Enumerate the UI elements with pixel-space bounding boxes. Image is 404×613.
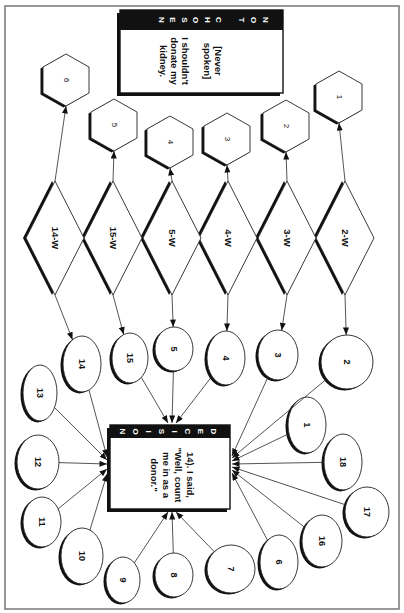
hexagon-label: 3 [223,137,232,142]
edge-arrow [170,168,172,181]
diamond-node: 14-W [23,181,84,295]
circle-node: 6 [258,535,299,591]
not-chosen-box-header-letter: N [261,17,270,23]
not-chosen-box-header-letter: C [214,17,223,23]
hexagon-node: 1 [314,71,363,125]
diamond-node: 4-W [196,181,257,295]
decision-box-text-line: 14). I said, [185,452,196,498]
not-chosen-box-header-letter: O [191,17,200,23]
diamond-label: 4-W [223,229,234,246]
diamond-node: 15-W [81,181,142,295]
diamond-node: 2-W [313,181,374,295]
edge-arrow [232,377,268,456]
edge-arrow [113,151,114,181]
decision-box-header-letter: C [183,429,192,435]
edge-arrow [90,474,107,530]
circle-node: 15 [110,333,149,385]
decision-box-header-letter: E [196,429,205,435]
not-chosen-box: NOTCHOSEN[Neverspoken]I shouldn'tdonate … [117,10,283,96]
not-chosen-box-header-letter: N [157,17,166,23]
hexagon-node: 2 [261,100,310,154]
circle-label: 11 [37,517,47,527]
circle-label: 18 [338,457,348,467]
diamond-label: 2-W [340,229,351,246]
edge-arrow [339,123,345,181]
edge-arrow [55,408,107,460]
edge-arrow [172,512,173,553]
diamond-label: 14-W [50,227,61,250]
edge-arrow [58,469,107,509]
decision-box-header-letter: I [170,430,179,432]
circle-label: 12 [33,457,43,467]
not-chosen-box-text-line: spoken] [202,43,213,79]
decision-box-header-letter: S [157,429,166,435]
edge-arrow [227,295,228,331]
edge-arrow [345,295,346,335]
not-chosen-box-header-letter: E [168,17,177,23]
decision-box-header-letter: I [144,430,153,432]
circle-label: 3 [273,352,283,357]
boxes-layer: NOTCHOSEN[Neverspoken]I shouldn'tdonate … [107,10,283,512]
circle-node: 2 [319,335,374,391]
circle-label: 4 [221,355,231,360]
edge-arrow [113,295,124,335]
circle-label: 7 [226,566,236,571]
diamond-label: 3-W [282,229,293,246]
circle-label: 6 [274,559,284,564]
circle-label: 14 [77,359,87,369]
hexagon-label: 4 [166,140,175,145]
not-chosen-box-text-line: I shouldn't [180,37,191,85]
circle-node: 8 [153,553,194,599]
circle-node: 18 [322,434,363,492]
circle-label: 8 [169,572,179,577]
not-chosen-box-header-letter: H [203,17,212,23]
not-chosen-box-text-line: [Never [213,46,224,76]
circle-node: 10 [59,528,104,586]
edge-arrow [172,371,173,423]
circle-node: 17 [343,487,390,539]
decision-box-header-letter: O [131,428,140,434]
circle-node: 7 [205,545,256,595]
diamond-label: 5-W [167,229,178,246]
hexagon-node: 4 [145,116,194,170]
not-chosen-box-header-letter: O [249,17,258,23]
hexagon-node: 5 [89,99,138,153]
circle-label: 13 [35,388,45,398]
not-chosen-box-text-line: kidney. [158,45,169,77]
edge-arrow [232,470,305,528]
edge-arrow [89,390,107,457]
decision-box-text-line: donor." [149,458,160,492]
circle-node: 13 [21,365,58,423]
hexagon-node: 3 [202,113,251,167]
edge-arrow [227,165,228,181]
circle-label: 10 [77,551,87,561]
circle-node: 9 [104,557,141,605]
decision-box-header-letter: N [118,429,127,435]
edge-arrow [59,463,107,464]
circle-node: 14 [61,336,102,394]
edge-arrow [176,376,212,423]
edge-arrow [55,106,66,181]
circle-label: 2 [342,359,352,364]
circle-node: 3 [256,330,299,382]
diamond-label: 15-W [108,227,119,250]
edge-arrow [286,152,287,181]
nodes-layer: 1234562-W3-W4-W5-W15-W14-W12345678910111… [15,54,390,605]
not-chosen-box-header-letter: S [180,17,189,23]
decision-box-header-letter: D [209,429,218,435]
circle-label: 9 [118,577,128,582]
not-chosen-box-header-letter: T [237,18,246,23]
circle-node: 11 [21,497,62,549]
edge-arrow [55,295,73,340]
hexagon-label: 6 [62,78,71,83]
hexagon-label: 2 [282,124,291,129]
edge-arrow [141,377,168,423]
edge-arrow [176,512,214,552]
edge-arrow [172,295,173,327]
diamond-node: 3-W [255,181,316,295]
edge-arrow [232,473,268,540]
circle-node: 16 [300,515,343,569]
diamond-node: 5-W [140,181,201,295]
decision-box: DECISION14). I said,"Well, countme in as… [107,425,230,512]
edge-arrow [282,295,287,330]
